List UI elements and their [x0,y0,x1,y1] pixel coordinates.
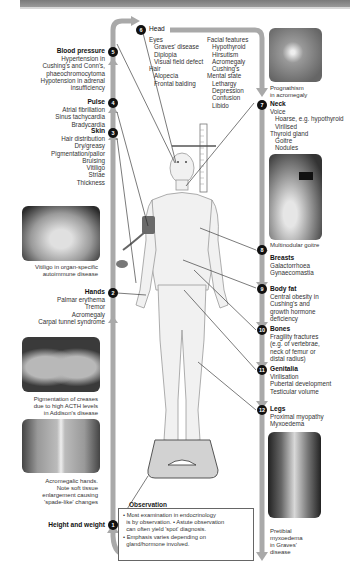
voice-item: Virilised [270,123,360,130]
prognathism-caption: Prognathism in acromegaly [270,85,350,99]
skin-item: Dry/greasy [0,142,105,149]
bones-title: Bones [270,325,360,333]
skin-item: Vitiligo [0,164,105,171]
hair-item: Alopecia [149,72,209,79]
badge-3: 3 [108,128,118,138]
breasts-item: Gynaecomastia [270,269,360,276]
body-fat-item: deficiency [270,315,360,322]
facial-item: Acromegaly [207,58,262,65]
genitalia-title: Genitalia [270,365,360,373]
observation-title: Observation [129,501,167,508]
caption-line: Note soft tissue [0,485,98,492]
goitre-caption: Multinodular goitre [270,242,360,249]
pulse-title: Pulse [0,98,105,106]
observation-line: is by observation. • Astute observation [123,519,249,526]
genitalia-item: Testicular volume [270,388,360,395]
caption-line: in Addison's disease [0,410,98,417]
body-fat-section: Body fat Central obesity in Cushing's an… [270,285,360,322]
height-weight-title: Height and weight [0,521,105,529]
caption-line: myxoedema [270,535,350,542]
bp-item: Cushing's and Conn's, [0,62,105,69]
hands-item: Palmar erythema [0,296,105,303]
eyes-item: Diplopia [149,51,209,58]
genitalia-section: Genitalia Virilisation Pubertal developm… [270,365,360,395]
skin-item: Hair distribution [0,135,105,142]
badge-4: 4 [108,98,118,108]
caption-line: disease [270,549,350,556]
bones-item: neck of femur or [270,348,360,355]
thyroid-label: Thyroid gland [270,130,360,137]
observation-box: • Most examination in endocrinology is b… [118,508,254,561]
neck-section: Neck Voice Hoarse, e.g. hypothyroid Viri… [270,100,360,152]
observation-line: • Emphasis varies depending on [123,534,249,541]
badge-10: 10 [257,325,267,335]
pulse-item: Sinus tachycardia [0,113,105,120]
badge-9: 9 [257,284,267,294]
body-fat-item: Cushing's and [270,300,360,307]
eye-mask [299,172,313,180]
observation-line: • Most examination in endocrinology [123,512,249,519]
legs-section: Legs Proximal myopathy Myxoedema [270,405,360,428]
breasts-title: Breasts [270,254,360,262]
blood-pressure-title: Blood pressure [0,47,105,55]
skin-item: Pigmentation/pallor [0,150,105,157]
hands-item: Acromegaly [0,311,105,318]
head-left-col: Eyes Graves' disease Diplopia Visual fie… [149,36,209,87]
voice-label: Voice [270,108,360,115]
bp-item: Hypotension in adrenal [0,77,105,84]
caption-line: Multinodular goitre [270,242,360,249]
badge-2: 2 [108,288,118,298]
caption-line: Vitiligo in organ-specific [0,264,98,271]
head-right-col: Facial features Hypothyroid Hirsutism Ac… [207,36,262,109]
caption-line: autoimmune disease [0,271,98,278]
hands-item: Tremor [0,303,105,310]
caption-line: due to high ACTH levels [0,403,98,410]
skin-item: Thickness [0,179,105,186]
facial-item: Hypothyroid [207,43,262,50]
body-fat-item: growth hormone [270,308,360,315]
prognathism-photo [269,28,322,82]
bones-item: Fragility fractures [270,333,360,340]
mental-label: Mental state [207,72,262,79]
breasts-section: Breasts Galactorrhoea Gynaecomastia [270,254,360,277]
voice-item: Hoarse, e.g. hypothyroid [270,115,360,122]
skin-item: Bruising [0,157,105,164]
mental-item: Lethargy [207,80,262,87]
hair-label: Hair [149,65,209,72]
caption-line: Pretibial [270,528,350,535]
thyroid-item: Nodules [270,144,360,151]
body-fat-item: Central obesity in [270,293,360,300]
eyes-item: Visual field defect [149,58,209,65]
skin-title: Skin [0,127,105,135]
skin-item: Striae [0,171,105,178]
thyroid-item: Goitre [270,137,360,144]
bp-item: insufficiency [0,84,105,91]
facial-item: Cushing's [207,65,262,72]
observation-line: can often yield 'spot' diagnosis. [123,526,249,533]
badge-5: 5 [108,47,118,57]
facial-item: Hirsutism [207,51,262,58]
pretibial-caption: Pretibial myxoedema in Graves' disease [270,528,350,556]
legs-item: Proximal myopathy [270,413,360,420]
pretibial-photo [268,432,321,518]
breasts-item: Galactorrhoea [270,262,360,269]
goitre-photo [269,154,322,240]
pulse-item: Atrial fibrillation [0,106,105,113]
skin-section: Skin Hair distribution Dry/greasy Pigmen… [0,127,105,186]
bones-item: (e.g. of vertebrae, [270,340,360,347]
bones-section: Bones Fragility fractures (e.g. of verte… [270,325,360,362]
legs-item: Myxoedema [270,420,360,427]
acromegalic-caption: Acromegalic hands. Note soft tissue enla… [0,478,98,506]
legs-title: Legs [270,405,360,413]
mental-item: Confusion [207,94,262,101]
blood-pressure-section: Blood pressure Hypertension in Cushing's… [0,47,105,91]
bp-item: Hypertension in [0,55,105,62]
bp-item: phaeochromocytoma [0,70,105,77]
eyes-label: Eyes [149,36,209,43]
badge-8: 8 [257,245,267,255]
hair-item: Frontal balding [149,80,209,87]
hands-section: Hands Palmar erythema Tremor Acromegaly … [0,288,105,325]
genitalia-item: Pubertal development [270,380,360,387]
facial-label: Facial features [207,36,262,43]
badge-6: 6 [136,25,146,35]
